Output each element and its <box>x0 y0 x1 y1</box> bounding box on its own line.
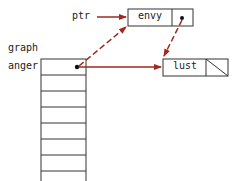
envy-to-lust-dashed-arrow <box>164 20 182 56</box>
lust-value: lust <box>173 60 197 71</box>
diagram-canvas <box>0 0 237 181</box>
anger-to-envy-dashed-arrow <box>79 27 126 66</box>
envy-pointer-dot <box>180 16 184 20</box>
anger-pointer-dot <box>75 65 79 69</box>
ptr-label: ptr <box>72 10 90 21</box>
anger-label: anger <box>8 60 38 71</box>
graph-array <box>41 59 86 181</box>
envy-value: envy <box>138 10 162 21</box>
graph-label: graph <box>8 42 38 53</box>
